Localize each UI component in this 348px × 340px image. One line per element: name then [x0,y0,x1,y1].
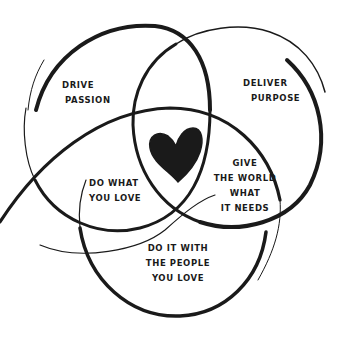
label-line: YOU LOVE [89,191,141,206]
label-line: DO WHAT [89,176,141,191]
label-line: WHAT [212,186,278,201]
heart-icon [150,128,202,182]
label-line: YOU LOVE [140,271,216,286]
label-do-it-with-people: DO IT WITH THE PEOPLE YOU LOVE [140,241,216,286]
label-deliver-purpose: DELIVER PURPOSE [243,76,300,106]
label-line: PURPOSE [243,91,300,106]
label-line: IT NEEDS [212,201,278,216]
label-line: GIVE [212,156,278,171]
venn-diagram [0,0,348,340]
label-do-what-you-love: DO WHAT YOU LOVE [89,176,141,206]
label-line: THE WORLD [212,171,278,186]
label-drive-passion: DRIVE PASSION [62,78,111,108]
label-line: THE PEOPLE [140,256,216,271]
label-line: DO IT WITH [140,241,216,256]
label-line: DRIVE [62,78,111,93]
label-give-the-world: GIVE THE WORLD WHAT IT NEEDS [212,156,278,216]
label-line: DELIVER [243,76,300,91]
label-line: PASSION [62,93,111,108]
